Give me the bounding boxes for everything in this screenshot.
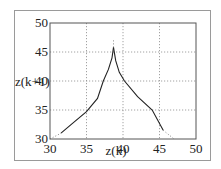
curve-left-branch bbox=[61, 47, 114, 133]
curve-right-branch bbox=[114, 47, 164, 130]
y-tick-label: 50 bbox=[35, 15, 48, 30]
x-tick-label: 45 bbox=[153, 141, 166, 156]
grid-lines bbox=[50, 23, 196, 139]
x-tick-label: 50 bbox=[190, 141, 203, 156]
y-tick-label: 30 bbox=[35, 131, 48, 146]
curve-right-extension bbox=[163, 130, 174, 139]
x-tick-label: 35 bbox=[80, 141, 93, 156]
curve-left-extension bbox=[50, 133, 61, 139]
curve-group bbox=[50, 40, 174, 139]
y-tick-label: 35 bbox=[35, 102, 48, 117]
x-axis-label: z(k) bbox=[106, 143, 127, 158]
plot-canvas: 3035404550 3035404550 z(k) z(k+1) bbox=[0, 0, 221, 169]
y-axis-label: z(k+1) bbox=[15, 74, 50, 89]
y-tick-label: 45 bbox=[35, 44, 48, 59]
